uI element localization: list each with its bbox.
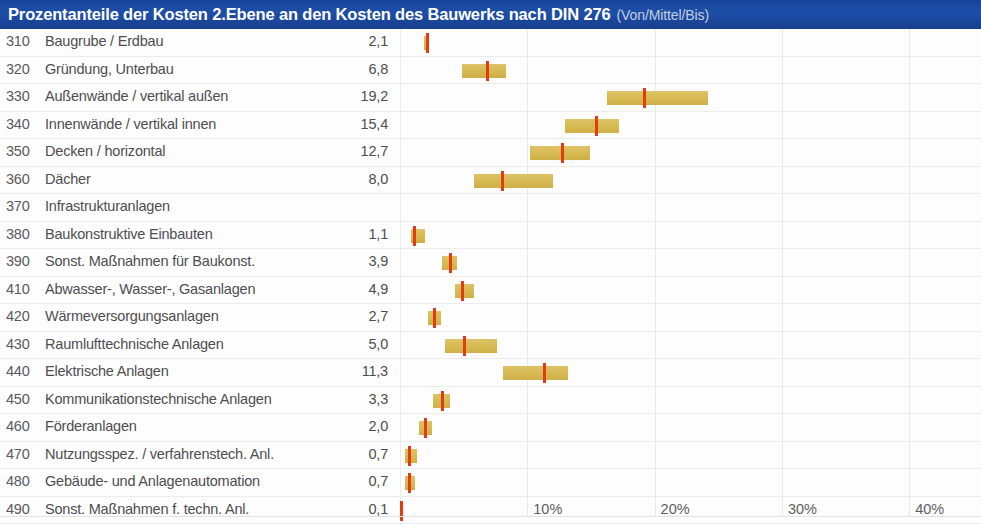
mittel-marker	[643, 88, 646, 108]
table-row: 350Decken / horizontal12,7	[0, 139, 981, 167]
table-row: 430Raumlufttechnische Anlagen5,0	[0, 332, 981, 360]
row-value: 2,1	[300, 33, 388, 49]
row-code: 480	[6, 473, 40, 489]
table-row: 370Infrastrukturanlagen	[0, 194, 981, 222]
mittel-marker	[408, 446, 411, 466]
row-value: 2,0	[300, 418, 388, 434]
row-code: 460	[6, 418, 40, 434]
table-row: 320Gründung, Unterbau6,8	[0, 57, 981, 85]
table-row: 450Kommunikationstechnische Anlagen3,3	[0, 387, 981, 415]
table-row: 330Außenwände / vertikal außen19,2	[0, 84, 981, 112]
row-label: Förderanlagen	[45, 418, 137, 434]
page-title: Prozentanteile der Kosten 2.Ebene an den…	[8, 5, 610, 24]
row-code: 490	[6, 501, 40, 517]
mittel-marker	[561, 143, 564, 163]
mittel-marker	[543, 363, 546, 383]
row-code: 320	[6, 61, 40, 77]
mittel-marker	[426, 33, 429, 53]
row-code: 380	[6, 226, 40, 242]
row-value: 1,1	[300, 226, 388, 242]
row-label: Elektrische Anlagen	[45, 363, 169, 379]
mittel-marker	[400, 501, 403, 521]
range-bar	[462, 64, 505, 78]
row-code: 370	[6, 198, 40, 214]
axis-tick-label: 40%	[915, 501, 944, 517]
table-row: 420Wärmeversorgungsanlagen2,7	[0, 304, 981, 332]
row-code: 470	[6, 446, 40, 462]
range-bar	[503, 366, 568, 380]
mittel-marker	[424, 418, 427, 438]
range-bar	[565, 119, 618, 133]
row-code: 390	[6, 253, 40, 269]
row-label: Gebäude- und Anlagenautomation	[45, 473, 260, 489]
mittel-marker	[441, 391, 444, 411]
row-label: Abwasser-, Wasser-, Gasanlagen	[45, 281, 255, 297]
row-code: 440	[6, 363, 40, 379]
row-value: 3,9	[300, 253, 388, 269]
mittel-marker	[461, 281, 464, 301]
table-row: 380Baukonstruktive Einbauten1,1	[0, 222, 981, 250]
chart-rows: 310Baugrube / Erdbau2,1320Gründung, Unte…	[0, 29, 981, 517]
row-label: Nutzungsspez. / verfahrenstech. Anl.	[45, 446, 274, 462]
mittel-marker	[501, 171, 504, 191]
axis-tick-label: 10%	[533, 501, 562, 517]
row-label: Raumlufttechnische Anlagen	[45, 336, 224, 352]
range-bar	[607, 91, 708, 105]
table-row: 410Abwasser-, Wasser-, Gasanlagen4,9	[0, 277, 981, 305]
row-value: 0,1	[300, 501, 388, 517]
row-label: Kommunikationstechnische Anlagen	[45, 391, 272, 407]
table-row: 490Sonst. Maßnahmen f. techn. Anl.0,110%…	[0, 497, 981, 524]
row-label: Infrastrukturanlagen	[45, 198, 170, 214]
row-code: 310	[6, 33, 40, 49]
row-value: 3,3	[300, 391, 388, 407]
table-row: 310Baugrube / Erdbau2,1	[0, 29, 981, 57]
row-label: Gründung, Unterbau	[45, 61, 174, 77]
row-code: 450	[6, 391, 40, 407]
row-value: 2,7	[300, 308, 388, 324]
table-row: 440Elektrische Anlagen11,3	[0, 359, 981, 387]
axis-tick-label: 20%	[661, 501, 690, 517]
row-label: Baukonstruktive Einbauten	[45, 226, 213, 242]
row-value: 12,7	[300, 143, 388, 159]
mittel-marker	[433, 308, 436, 328]
row-label: Wärmeversorgungsanlagen	[45, 308, 219, 324]
table-row: 340Innenwände / vertikal innen15,4	[0, 112, 981, 140]
mittel-marker	[595, 116, 598, 136]
row-value: 6,8	[300, 61, 388, 77]
row-label: Decken / horizontal	[45, 143, 165, 159]
axis-tick-label: 30%	[788, 501, 817, 517]
row-code: 420	[6, 308, 40, 324]
row-code: 410	[6, 281, 40, 297]
mittel-marker	[408, 473, 411, 493]
row-label: Sonst. Maßnahmen f. techn. Anl.	[45, 501, 249, 517]
table-row: 390Sonst. Maßnahmen für Baukonst.3,9	[0, 249, 981, 277]
row-label: Dächer	[45, 171, 91, 187]
row-label: Außenwände / vertikal außen	[45, 88, 228, 104]
row-value: 8,0	[300, 171, 388, 187]
bottom-border	[0, 516, 981, 517]
table-row: 460Förderanlagen2,0	[0, 414, 981, 442]
row-value: 19,2	[300, 88, 388, 104]
range-bar	[445, 339, 497, 353]
mittel-marker	[486, 61, 489, 81]
row-label: Innenwände / vertikal innen	[45, 116, 216, 132]
row-label: Baugrube / Erdbau	[45, 33, 163, 49]
row-value: 5,0	[300, 336, 388, 352]
title-subtitle: (Von/Mittel/Bis)	[616, 7, 709, 23]
row-value: 0,7	[300, 473, 388, 489]
row-value: 15,4	[300, 116, 388, 132]
row-code: 350	[6, 143, 40, 159]
row-value: 11,3	[300, 363, 388, 379]
range-bar	[474, 174, 553, 188]
table-row: 480Gebäude- und Anlagenautomation0,7	[0, 469, 981, 497]
mittel-marker	[413, 226, 416, 246]
row-value: 4,9	[300, 281, 388, 297]
table-row: 360Dächer8,0	[0, 167, 981, 195]
mittel-marker	[449, 253, 452, 273]
row-code: 330	[6, 88, 40, 104]
chart-title-bar: Prozentanteile der Kosten 2.Ebene an den…	[0, 0, 981, 29]
row-code: 340	[6, 116, 40, 132]
row-label: Sonst. Maßnahmen für Baukonst.	[45, 253, 255, 269]
row-value: 0,7	[300, 446, 388, 462]
